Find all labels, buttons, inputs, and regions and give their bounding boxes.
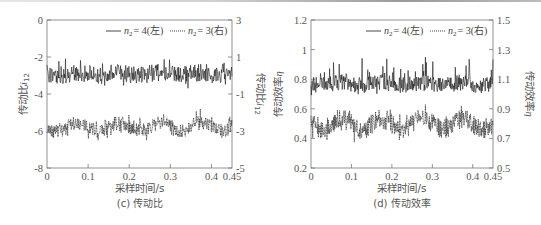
y-tick-label: 0.2 — [294, 163, 307, 174]
x-tick-label: 0.1 — [345, 171, 358, 182]
x-tick-label: 0 — [308, 171, 313, 182]
y-ticks-left-c: 0-2-4-6-8 — [34, 15, 51, 174]
figure: 0-2-4-6-8 31-1-3-5 00.10.20.30.40.45 n2=… — [0, 0, 541, 225]
y-axis-label-right-d: 传动效率η — [524, 71, 536, 116]
x-tick-label: 0.45 — [223, 171, 241, 182]
y-tick-label: 0 — [38, 15, 43, 26]
y-tick-label: 1.2 — [294, 15, 307, 26]
x-tick-label: 0.3 — [164, 171, 177, 182]
y-ticks-right-c: 31-1-3-5 — [228, 15, 245, 174]
x-tick-label: 0.3 — [426, 171, 439, 182]
y-tick-label: 0.9 — [497, 104, 510, 115]
series-d — [311, 57, 493, 142]
y-tick-label: 0.6 — [294, 104, 307, 115]
caption-c: (c) 传动比 — [117, 198, 163, 209]
x-ticks-c: 00.10.20.30.40.45 — [44, 164, 241, 182]
y-tick-label: -4 — [34, 89, 43, 100]
y-tick-label: 1 — [236, 52, 241, 63]
x-axis-label-c: 采样时间/s — [115, 182, 164, 194]
y-tick-label: 3 — [236, 15, 241, 26]
y-tick-label: 0.8 — [294, 74, 307, 85]
y-tick-label: 1.5 — [497, 15, 510, 26]
caption-d: (d) 传动效率 — [373, 197, 430, 209]
x-tick-label: 0.2 — [123, 171, 136, 182]
plot-frame-d — [311, 20, 493, 168]
x-tick-label: 0.2 — [385, 171, 398, 182]
chart-d: 1.210.80.60.40.2 1.51.31.10.90.70.5 00.1… — [272, 15, 536, 209]
legend-c: n2= 4(左) n2= 3(右) — [106, 24, 227, 38]
y-ticks-left-d: 1.210.80.60.40.2 — [294, 15, 315, 174]
y-ticks-right-d: 1.51.31.10.90.70.5 — [489, 15, 510, 174]
y-tick-label: 1 — [302, 45, 307, 56]
x-tick-label: 0.4 — [205, 171, 219, 182]
x-tick-label: 0.45 — [484, 171, 502, 182]
y-tick-label: -6 — [34, 126, 43, 137]
series-dotted — [47, 109, 232, 140]
x-ticks-d: 00.10.20.30.40.45 — [308, 164, 502, 182]
legend-item-2: n2= 3(右) — [188, 24, 227, 38]
plot-frame-c — [47, 20, 232, 168]
x-tick-label: 0.1 — [82, 171, 95, 182]
series-solid — [311, 57, 493, 95]
series-dotted — [311, 105, 493, 143]
y-tick-label: 1.1 — [497, 74, 510, 85]
y-axis-label-left-d: 传动效率η — [272, 71, 284, 116]
series-c — [47, 59, 232, 141]
y-axis-label-right-c: 传动比i12 — [253, 73, 267, 115]
y-tick-label: 0.7 — [497, 133, 510, 144]
x-tick-label: 0 — [44, 171, 49, 182]
x-axis-label-d: 采样时间/s — [377, 182, 426, 194]
y-tick-label: -3 — [236, 126, 245, 137]
y-tick-label: 0.4 — [294, 133, 308, 144]
chart-c: 0-2-4-6-8 31-1-3-5 00.10.20.30.40.45 n2=… — [17, 15, 267, 209]
y-tick-label: 1.3 — [497, 45, 510, 56]
y-tick-label: -1 — [236, 89, 245, 100]
y-tick-label: -2 — [34, 52, 43, 63]
legend-d: n2= 4(左) n2= 3(右) — [366, 24, 487, 38]
legend-item-1: n2= 4(左) — [124, 24, 163, 38]
y-tick-label: -8 — [34, 163, 43, 174]
legend-item-2: n2= 3(右) — [448, 24, 487, 38]
series-solid — [47, 59, 232, 89]
y-axis-label-left-c: 传动比i12 — [17, 73, 31, 115]
legend-item-1: n2= 4(左) — [384, 24, 423, 38]
x-tick-label: 0.4 — [466, 171, 480, 182]
